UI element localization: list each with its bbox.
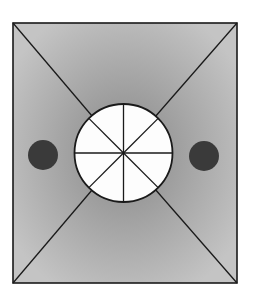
diagram-canvas [0,0,253,306]
right-dot [189,141,219,171]
circle-segment-lines [75,104,173,202]
left-dot [28,140,58,170]
